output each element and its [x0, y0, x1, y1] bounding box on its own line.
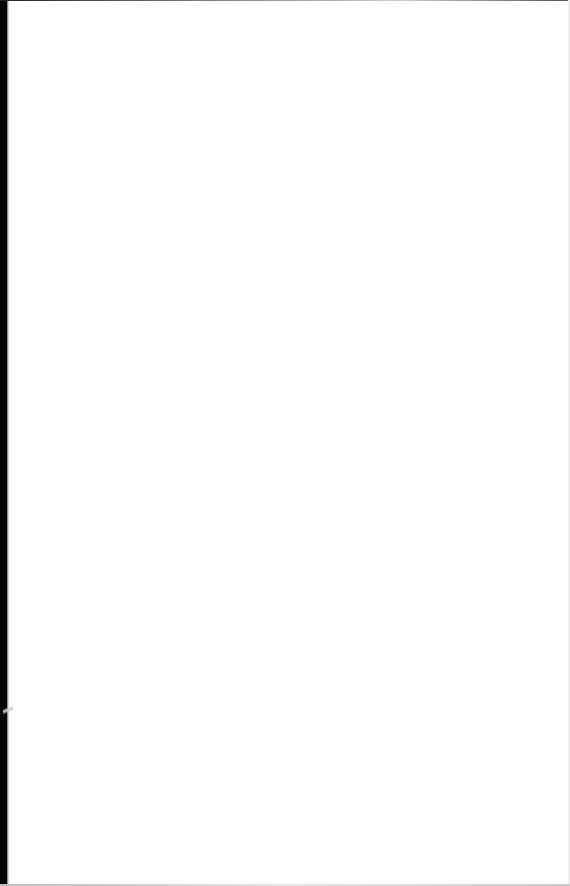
scan-top-edge [0, 0, 570, 1]
scan-left-edge [0, 0, 7, 886]
blank-page-area [9, 1, 568, 884]
scan-left-shadow [7, 0, 9, 886]
paper-edge-artifact [3, 680, 13, 740]
